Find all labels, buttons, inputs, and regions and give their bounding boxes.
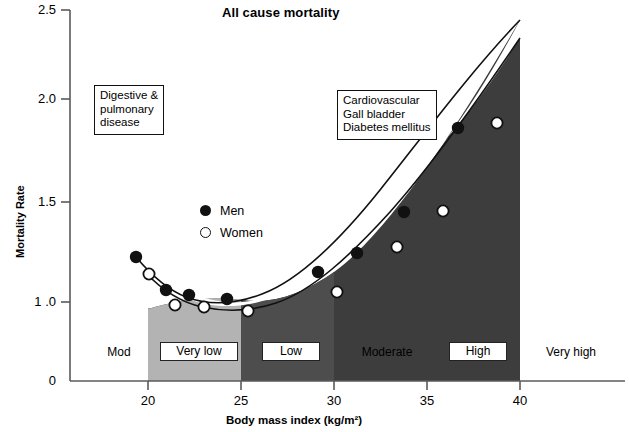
women-point [198, 301, 209, 312]
men-point [351, 247, 363, 259]
x-axis-title: Body mass index (kg/m²) [226, 414, 362, 426]
x-tick-label: 25 [221, 393, 261, 408]
men-point [130, 251, 142, 263]
x-tick-label: 40 [500, 393, 540, 408]
band-label-very-high: Very high [531, 344, 611, 361]
chart-canvas [0, 0, 629, 432]
callout-line: Digestive & [100, 89, 158, 103]
band-label-very-low: Very low [160, 342, 238, 361]
band-low-overlay [241, 272, 334, 381]
y-tick-label: 0 [18, 373, 56, 388]
y-tick-label: 1 .0 [18, 294, 56, 309]
x-tick-label: 20 [128, 393, 168, 408]
women-point [391, 241, 402, 252]
y-tick-label: 1.5 [18, 194, 56, 209]
legend-item-women: Women [200, 226, 263, 240]
band-label-low: Low [262, 342, 320, 361]
men-point [221, 293, 233, 305]
men-point [398, 206, 410, 218]
band-very-low-overlay [148, 299, 241, 381]
chart-figure: All cause mortality Mortality Rate Body … [0, 0, 629, 432]
open-circle-icon [200, 227, 211, 238]
women-point [143, 268, 154, 279]
band-label-mod: Mod [84, 344, 154, 361]
men-point [160, 284, 172, 296]
filled-circle-icon [200, 205, 211, 216]
callout-digestive-pulmonary: Digestive & pulmonary disease [94, 85, 164, 135]
page-title: All cause mortality [222, 5, 340, 20]
x-tick-label: 35 [407, 393, 447, 408]
legend-item-men: Men [200, 204, 244, 218]
women-point [242, 305, 253, 316]
men-point [312, 266, 324, 278]
band-label-high: High [449, 342, 507, 361]
callout-line: Diabetes mellitus [343, 121, 431, 135]
women-point [437, 205, 448, 216]
callout-cardiovascular-gall-diabetes: Cardiovascular Gall bladder Diabetes mel… [337, 90, 437, 140]
men-point [183, 289, 195, 301]
women-point [169, 299, 180, 310]
callout-line: pulmonary [100, 103, 158, 117]
callout-line: Gall bladder [343, 108, 431, 122]
band-label-moderate: Moderate [352, 344, 422, 361]
women-point [491, 117, 502, 128]
y-tick-label: 2.0 [18, 91, 56, 106]
men-point [452, 122, 464, 134]
x-tick-label: 30 [314, 393, 354, 408]
women-point [331, 286, 342, 297]
curve-fill-region [136, 20, 520, 381]
legend-label-men: Men [220, 204, 244, 218]
callout-line: Cardiovascular [343, 94, 431, 108]
callout-line: disease [100, 116, 158, 130]
legend-label-women: Women [220, 226, 263, 240]
y-tick-label: 2.5 [18, 2, 56, 17]
